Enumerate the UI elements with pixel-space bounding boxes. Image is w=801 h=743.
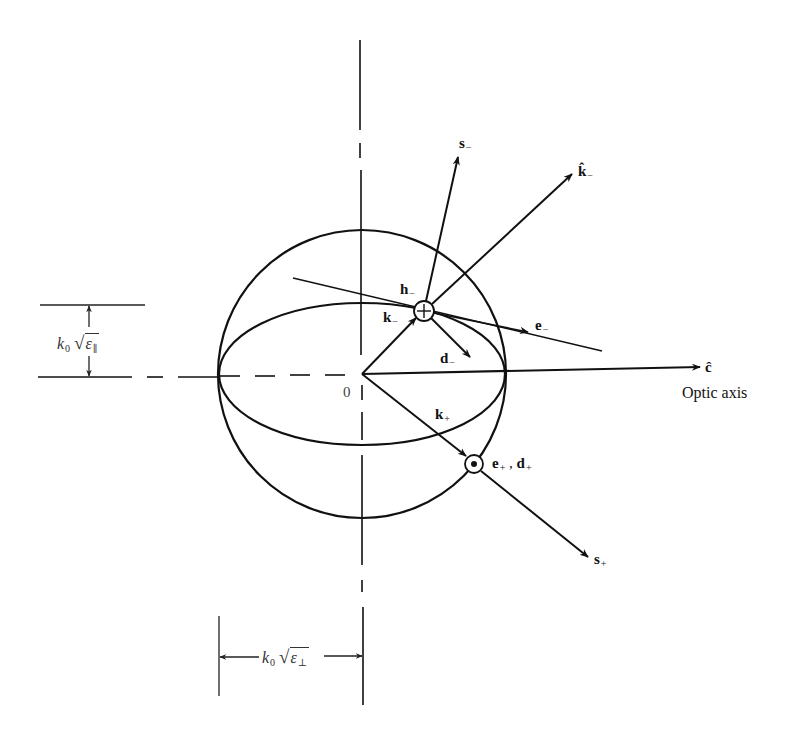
optic-axis-vector-label: ĉ [705,360,712,375]
s-plus-label: s+ [594,552,606,569]
e-minus-arrow [434,313,528,332]
horizontal-axis-left [38,375,345,377]
s-minus-arrow [426,157,458,301]
k-hat-minus-label: k̂− [578,164,593,181]
k-minus-label: k− [383,310,398,327]
s-plus-arrow [481,471,588,557]
e-minus-label: e− [535,318,548,335]
e-plus-d-plus-label: e+ , d+ [492,456,532,473]
circled-cross-icon [414,301,434,321]
k-plus-label: k+ [435,407,450,424]
perpendicular-dimension-label: k0 √ε⊥ [262,647,309,668]
h-minus-label: h− [400,282,415,299]
diagram-canvas [0,0,801,743]
circled-dot-icon [465,455,483,473]
parallel-dimension-label: k0 √ε∥ [57,333,99,354]
optic-axis-caption: Optic axis [682,385,747,401]
origin-label: 0 [343,385,351,400]
d-minus-label: d− [440,351,455,368]
k-hat-minus-arrow [432,174,572,304]
s-minus-label: s− [459,136,471,153]
optic-axis-arrow [362,367,700,374]
